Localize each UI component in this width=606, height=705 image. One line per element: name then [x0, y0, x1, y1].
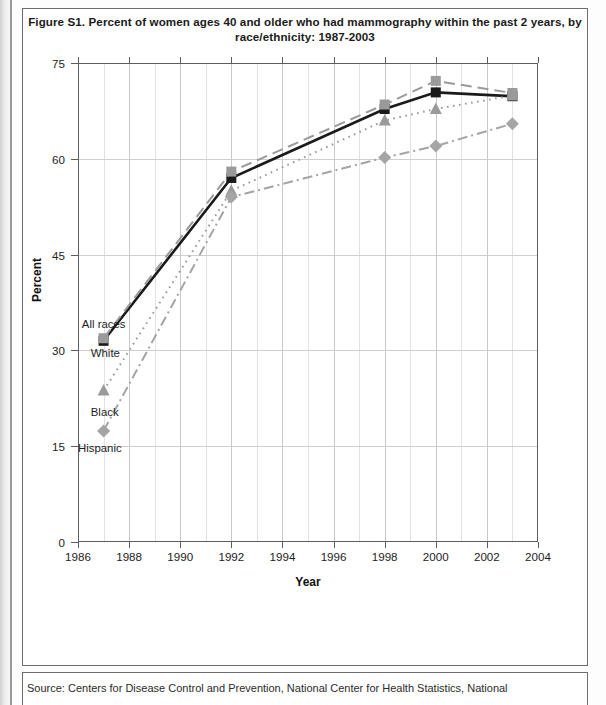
y-axis-title: Percent: [30, 258, 44, 302]
x-axis-tick: [538, 57, 539, 63]
x-axis-tick-label: 1986: [65, 550, 91, 563]
y-axis-tick-label: 15: [52, 440, 65, 453]
series-label-black: Black: [91, 406, 119, 418]
x-axis-tick-label: 1996: [321, 550, 347, 563]
data-point-marker: [97, 424, 110, 437]
x-axis-title: Year: [78, 575, 538, 589]
data-point-marker: [380, 100, 390, 110]
figure-title: Figure S1. Percent of women ages 40 and …: [28, 14, 582, 44]
x-axis-tick: [538, 542, 539, 548]
x-axis-tick-label: 1998: [372, 550, 398, 563]
data-point-marker: [226, 167, 236, 177]
data-point-marker: [431, 76, 441, 86]
data-point-marker: [430, 103, 442, 115]
series-layer: [78, 63, 538, 542]
x-axis-tick: [487, 542, 488, 548]
x-axis-tick-label: 1994: [270, 550, 296, 563]
y-axis-tick: [71, 446, 78, 447]
x-axis-tick-label: 1990: [167, 550, 193, 563]
x-axis-tick-label: 2004: [525, 550, 551, 563]
series-label-hispanic: Hispanic: [78, 442, 122, 454]
y-axis-tick-label: 45: [52, 248, 65, 261]
data-point-marker: [431, 87, 441, 97]
series-line: [104, 124, 513, 431]
data-point-marker: [378, 151, 391, 164]
x-axis-tick-label: 2000: [423, 550, 449, 563]
x-axis-tick: [282, 542, 283, 548]
y-axis-tick: [71, 255, 78, 256]
y-axis-tick-label: 75: [52, 57, 65, 70]
x-axis-tick-label: 1988: [116, 550, 142, 563]
data-point-marker: [225, 191, 238, 204]
y-axis-tick-label: 60: [52, 152, 65, 165]
x-axis-tick: [436, 542, 437, 548]
x-axis-tick: [334, 542, 335, 548]
y-axis-tick: [71, 63, 78, 64]
y-axis-tick-label: 0: [59, 536, 65, 549]
series-line: [104, 96, 513, 391]
y-axis-tick-label: 30: [52, 344, 65, 357]
x-axis-tick: [231, 542, 232, 548]
data-point-marker: [99, 333, 109, 343]
figure-page: Figure S1. Percent of women ages 40 and …: [0, 0, 606, 705]
series-line: [104, 92, 513, 340]
page-edge-line: [10, 0, 12, 705]
source-note: Source: Centers for Disease Control and …: [27, 682, 587, 694]
x-axis-tick: [385, 542, 386, 548]
series-line: [104, 81, 513, 338]
data-point-marker: [506, 117, 519, 130]
y-axis-tick: [71, 350, 78, 351]
series-label-all-races: All races: [82, 318, 126, 330]
y-axis-tick: [71, 542, 78, 543]
y-axis-tick: [71, 159, 78, 160]
page-edge-artifact: [0, 0, 10, 705]
x-axis-tick: [78, 542, 79, 548]
x-axis-tick-label: 2002: [474, 550, 500, 563]
x-axis-tick: [129, 542, 130, 548]
x-axis-tick: [180, 542, 181, 548]
plot-area: 1986198819901992199419961998200020022004…: [78, 63, 538, 542]
series-label-white: White: [91, 347, 120, 359]
data-point-marker: [429, 140, 442, 153]
x-axis-tick-label: 1992: [218, 550, 244, 563]
